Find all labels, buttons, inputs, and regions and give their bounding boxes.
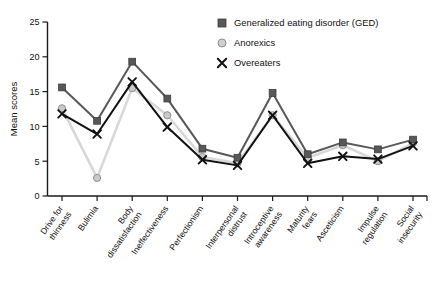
legend-item-label: Anorexics [234, 37, 275, 48]
x-category-label: Introceptiveawareness [242, 204, 284, 252]
y-tick-label: 20 [29, 52, 39, 62]
legend: Generalized eating disorder (GED)Anorexi… [218, 17, 379, 68]
legend-circle-icon [218, 39, 226, 47]
line-chart: 0510152025 Drive forthinnessBulimiaBodyd… [0, 0, 440, 283]
y-axis-title-text: Mean scores [8, 82, 19, 137]
y-tick-label: 0 [34, 191, 39, 201]
x-category-label: Drive forthinness [38, 204, 73, 242]
y-tick-label: 25 [29, 17, 39, 27]
x-category-label: Impulseregulation [351, 204, 389, 247]
legend-item-label: Generalized eating disorder (GED) [234, 17, 378, 28]
legend-square-icon [218, 19, 226, 27]
x-category-label-line: Asceticism [314, 204, 346, 243]
data-point-marker [199, 145, 206, 152]
x-category-label-line: Bulimia [76, 204, 100, 233]
legend-item[interactable]: Overeaters [218, 57, 281, 68]
data-point-marker [269, 90, 276, 97]
x-category-label: Asceticism [314, 204, 346, 243]
x-category-label: Perfectionism [167, 204, 205, 252]
x-axis-ticks [62, 196, 427, 201]
data-point-marker [234, 154, 241, 161]
data-point-marker [164, 123, 172, 131]
legend-item-label: Overeaters [234, 57, 281, 68]
data-point-marker [59, 84, 66, 91]
series-square [59, 58, 417, 161]
data-point-marker [129, 58, 136, 65]
legend-item[interactable]: Anorexics [218, 37, 275, 48]
data-point-marker [93, 130, 101, 138]
y-axis-title: Mean scores [8, 82, 19, 137]
y-axis-ticks: 0510152025 [29, 17, 47, 201]
y-tick-label: 5 [34, 157, 39, 167]
data-point-marker [375, 146, 382, 153]
series-circle [58, 85, 416, 182]
data-point-marker [410, 136, 417, 143]
legend-cross-icon [218, 59, 226, 67]
x-category-label-line: Perfectionism [167, 204, 205, 252]
x-category-label: Maturityfears [285, 203, 320, 240]
y-tick-label: 10 [29, 122, 39, 132]
data-point-marker [164, 112, 171, 119]
data-point-marker [164, 95, 171, 102]
x-axis-category-labels: Drive forthinnessBulimiaBodydissatisfact… [38, 203, 425, 259]
y-tick-label: 15 [29, 87, 39, 97]
data-series [58, 58, 417, 181]
x-category-label: Interpersonaldistrust [203, 203, 249, 256]
data-point-marker [94, 174, 101, 181]
chart-container: 0510152025 Drive forthinnessBulimiaBodyd… [0, 0, 440, 283]
data-point-marker [304, 151, 311, 158]
data-point-marker [94, 117, 101, 124]
data-point-marker [339, 139, 346, 146]
x-category-label: Bulimia [76, 204, 100, 233]
legend-item[interactable]: Generalized eating disorder (GED) [218, 17, 378, 28]
x-category-label: Socialinsecurity [387, 203, 425, 245]
